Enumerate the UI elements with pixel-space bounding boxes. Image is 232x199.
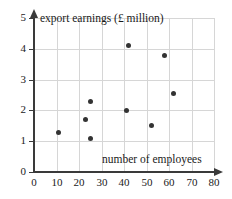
data-point [149,123,154,128]
gridline-horizontal [34,49,214,50]
gridline-vertical [57,18,58,172]
y-tick-mark [29,110,34,111]
y-axis-arrow-icon [30,9,38,18]
y-tick-mark [29,172,34,173]
y-tick-mark [29,141,34,142]
y-tick-label: 3 [6,74,26,85]
x-axis-arrow-icon [214,168,223,176]
gridline-vertical [214,18,215,172]
data-point [56,130,61,135]
plot-area [34,18,214,172]
x-tick-label: 40 [113,177,135,188]
data-point [171,91,176,96]
y-tick-label: 0 [6,166,26,177]
data-point [126,43,131,48]
y-axis-line [33,16,35,173]
gridline-vertical [169,18,170,172]
x-tick-label: 80 [203,177,225,188]
y-tick-label: 4 [6,43,26,54]
y-tick-mark [29,80,34,81]
y-tick-mark [29,49,34,50]
gridline-vertical [192,18,193,172]
x-axis-line [33,171,215,173]
x-tick-label: 50 [136,177,158,188]
gridline-horizontal [34,80,214,81]
x-tick-label: 70 [181,177,203,188]
x-tick-label: 30 [91,177,113,188]
gridline-vertical [147,18,148,172]
data-point [162,53,167,58]
gridline-vertical [124,18,125,172]
y-axis-title: export earnings (£ million) [40,12,164,24]
y-tick-label: 2 [6,104,26,115]
gridline-vertical [102,18,103,172]
scatter-chart: 012345 01020304050607080 export earnings… [0,0,232,199]
data-point [83,117,88,122]
y-tick-mark [29,18,34,19]
gridline-vertical [79,18,80,172]
y-tick-label: 5 [6,12,26,23]
data-point [88,99,93,104]
x-tick-label: 20 [68,177,90,188]
x-tick-label: 10 [46,177,68,188]
x-tick-label: 60 [158,177,180,188]
data-point [88,136,93,141]
x-axis-title: number of employees [102,153,202,165]
y-tick-label: 1 [6,135,26,146]
gridline-horizontal [34,141,214,142]
data-point [124,108,129,113]
x-tick-label: 0 [23,177,45,188]
